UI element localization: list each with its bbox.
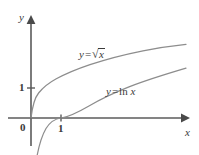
y-tick-1-label: 1 (19, 82, 25, 93)
plot-canvas (0, 0, 199, 155)
radical-sign-icon: √ (92, 48, 99, 60)
y-axis-label: y (19, 12, 24, 23)
sqrt-label-equals: = (84, 48, 92, 60)
y-axis-arrow-icon (27, 15, 36, 24)
graph-figure: y x 1 1 0 y=√x y=ln x (0, 0, 199, 155)
x-axis-label: x (185, 127, 190, 138)
curve-ln-x (37, 68, 186, 155)
curve-sqrt-x (31, 44, 186, 118)
x-axis-arrow-icon (181, 114, 190, 123)
curve-label-ln: y=ln x (106, 86, 135, 97)
origin-label: 0 (20, 122, 26, 133)
x-tick-1-label: 1 (58, 123, 64, 134)
ln-label-argument: x (130, 85, 135, 97)
ln-label-equals: = (111, 85, 119, 97)
curve-label-sqrt: y=√x (79, 48, 105, 60)
ln-label-function: ln (119, 85, 128, 97)
radical-group: √x (92, 48, 105, 60)
sqrt-label-argument: x (98, 48, 105, 60)
